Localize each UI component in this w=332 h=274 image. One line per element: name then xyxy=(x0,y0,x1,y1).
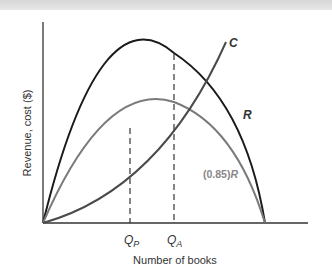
label-r: R xyxy=(243,108,252,122)
label-c: C xyxy=(229,36,238,50)
label-085r: (0.85)R xyxy=(203,168,238,180)
label-qa: QA xyxy=(167,233,182,249)
revenue-cost-diagram: C R (0.85)R QP QA Number of books Revenu… xyxy=(0,0,332,274)
label-qp: QP xyxy=(124,233,139,249)
x-axis-label: Number of books xyxy=(133,254,217,266)
revenue-curve-r xyxy=(43,40,265,223)
y-axis-label: Revenue, cost ($) xyxy=(21,90,33,177)
